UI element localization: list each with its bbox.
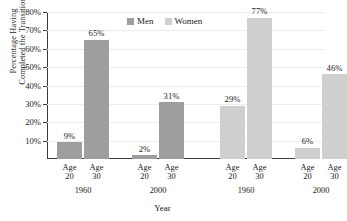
bar: 46%: [322, 74, 347, 159]
x-axis-age-word: Age: [220, 163, 245, 172]
x-axis-category-label: Age30: [322, 163, 347, 182]
y-axis-tick-label: 20%: [25, 117, 41, 127]
bar-value-label: 65%: [89, 28, 105, 38]
y-axis-tick-mark: [43, 49, 47, 50]
x-axis-category-label: Age30: [84, 163, 109, 182]
x-axis-age-word: Age: [57, 163, 82, 172]
legend-item-women: Women: [165, 16, 203, 26]
x-axis-age-number: 20: [132, 172, 157, 181]
y-axis-tick-mark: [43, 104, 47, 105]
x-axis-age-word: Age: [322, 163, 347, 172]
bar: 31%: [159, 102, 184, 159]
y-axis-tick-label: 60%: [25, 44, 41, 54]
x-axis-year-label: 1960: [226, 186, 266, 195]
bar: 65%: [84, 40, 109, 159]
x-axis-age-number: 20: [220, 172, 245, 181]
y-axis-tick-mark: [43, 67, 47, 68]
bar: 29%: [220, 106, 245, 159]
bar-value-label: 9%: [64, 131, 75, 141]
bar: 77%: [247, 18, 272, 159]
y-axis-tick-mark: [43, 141, 47, 142]
x-axis-age-word: Age: [247, 163, 272, 172]
legend-label-men: Men: [137, 16, 154, 26]
bar-value-label: 2%: [139, 144, 150, 154]
bar-value-label: 46%: [327, 63, 343, 73]
x-axis-title: Year: [0, 203, 325, 213]
legend: Men Women: [127, 16, 209, 26]
bar: 6%: [295, 148, 320, 159]
x-axis-year-label: 2000: [138, 186, 178, 195]
plot-area: 80%70%60%50%40%30%20%10% 9%65%2%31%29%77…: [47, 12, 319, 159]
y-axis-tick-mark: [43, 86, 47, 87]
x-axis-age-number: 20: [295, 172, 320, 181]
x-axis-age-word: Age: [295, 163, 320, 172]
bar-value-label: 77%: [252, 6, 268, 16]
y-axis-tick-label: 40%: [25, 81, 41, 91]
y-axis-tick-mark: [43, 12, 47, 13]
y-axis-tick-label: 30%: [25, 99, 41, 109]
x-axis-age-number: 20: [57, 172, 82, 181]
bar-value-label: 6%: [302, 136, 313, 146]
x-axis-age-number: 30: [159, 172, 184, 181]
y-axis-tick-label: 50%: [25, 62, 41, 72]
legend-swatch-women-icon: [165, 18, 172, 25]
x-axis-year-label: 2000: [301, 186, 341, 195]
legend-swatch-men-icon: [127, 18, 134, 25]
x-axis-category-label: Age30: [159, 163, 184, 182]
x-axis-age-word: Age: [84, 163, 109, 172]
x-axis-category-label: Age20: [132, 163, 157, 182]
x-axis-category-label: Age20: [220, 163, 245, 182]
gridline: [47, 12, 325, 13]
x-axis-age-number: 30: [247, 172, 272, 181]
y-axis-tick-mark: [43, 30, 47, 31]
y-axis-tick-label: 70%: [25, 25, 41, 35]
bar-value-label: 31%: [164, 91, 180, 101]
bar: 9%: [57, 142, 82, 159]
x-axis-age-word: Age: [159, 163, 184, 172]
y-axis-tick-mark: [43, 122, 47, 123]
y-axis-tick-label: 80%: [25, 7, 41, 17]
legend-label-women: Women: [175, 16, 203, 26]
bar: 2%: [132, 155, 157, 159]
x-axis-category-label: Age30: [247, 163, 272, 182]
bar-value-label: 29%: [225, 94, 241, 104]
x-axis-age-number: 30: [84, 172, 109, 181]
x-axis-year-label: 1960: [63, 186, 103, 195]
x-axis-category-label: Age20: [295, 163, 320, 182]
y-axis-title-line-1: Percentage Having: [9, 8, 18, 73]
x-axis-age-number: 30: [322, 172, 347, 181]
x-axis-category-label: Age20: [57, 163, 82, 182]
legend-item-men: Men: [127, 16, 154, 26]
y-axis-tick-label: 10%: [25, 136, 41, 146]
x-axis-age-word: Age: [132, 163, 157, 172]
